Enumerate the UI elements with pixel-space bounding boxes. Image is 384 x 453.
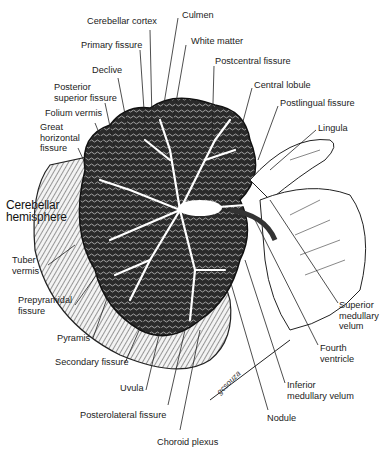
label-primary-fissure: Primary fissure <box>81 40 142 51</box>
svg-text:gcsouza: gcsouza <box>215 369 243 397</box>
label-uvula: Uvula <box>120 383 144 394</box>
label-lingula: Lingula <box>318 123 348 134</box>
label-choroid-plexus: Choroid plexus <box>157 437 218 448</box>
label-inferior-medullary-velum: Inferior medullary velum <box>287 380 354 401</box>
label-fourth-ventricle: Fourth ventricle <box>320 343 354 364</box>
label-folium-vermis: Folium vermis <box>45 108 102 119</box>
label-posterior-superior-fissure: Posterior superior fissure <box>54 82 117 103</box>
label-central-lobule: Central lobule <box>254 80 311 91</box>
label-cerebellar-hemisphere: Cerebellar hemisphere <box>6 199 67 223</box>
label-postcentral-fissure: Postcentral fissure <box>215 56 291 67</box>
label-tuber-vermis: Tuber vermis <box>12 255 39 276</box>
label-white-matter: White matter <box>191 36 243 47</box>
label-secondary-fissure: Secondary fissure <box>55 357 129 368</box>
label-prepyramidal-fissure: Prepyramidal fissure <box>18 295 72 316</box>
label-nodule: Nodule <box>267 413 296 424</box>
label-great-horizontal-fissure: Great horizontal fissure <box>40 122 80 154</box>
label-declive: Declive <box>92 65 122 76</box>
label-cerebellar-cortex: Cerebellar cortex <box>87 16 157 27</box>
label-culmen: Culmen <box>182 10 214 21</box>
label-postlingual-fissure: Postlingual fissure <box>280 98 355 109</box>
cerebellum-diagram: gcsouza Cerebella <box>0 0 384 453</box>
label-pyramis: Pyramis <box>57 333 90 344</box>
label-superior-medullary-velum: Superior medullary velum <box>339 300 379 332</box>
label-posterolateral-fissure: Posterolateral fissure <box>80 410 166 421</box>
